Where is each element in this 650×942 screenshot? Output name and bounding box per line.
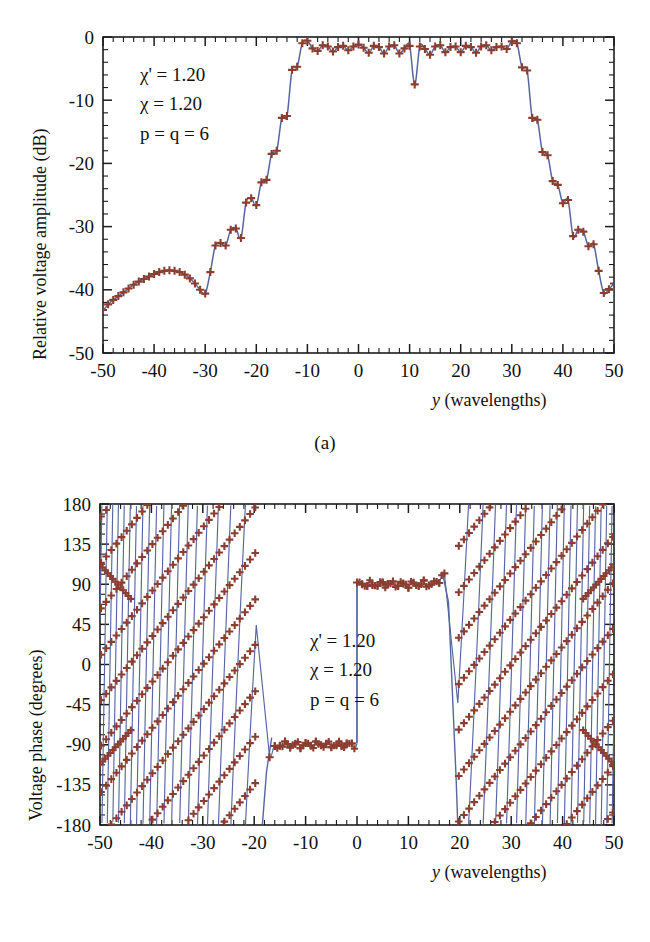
annotation-line-a-0: χ' = 1.20 [140,60,209,89]
y-tick-label: -20 [69,153,94,174]
x-tick-label: 10 [399,832,418,853]
annotation-line-b-2: p = q = 6 [310,685,379,714]
y-tick-label: -30 [69,216,94,237]
x-axis-label-a: y (wavelengths) [432,390,546,411]
annotation-line-a-2: p = q = 6 [140,119,209,148]
x-tick-label: -20 [244,360,269,381]
y-axis-label-b: Voltage phase (degrees) [26,649,47,821]
x-tick-label: 0 [354,360,364,381]
x-tick-label: -20 [242,832,267,853]
x-tick-label: 0 [352,832,362,853]
x-tick-label: -30 [193,360,218,381]
x-axis-label-a-unit: (wavelengths) [445,390,547,410]
y-tick-label: 135 [63,534,92,555]
x-tick-label: 10 [400,360,419,381]
panel-caption-a: (a) [0,432,650,454]
x-tick-label: -10 [293,832,318,853]
y-tick-label: -40 [69,279,94,300]
x-tick-label: -10 [295,360,320,381]
panel-a: -50-40-30-20-10010203040500-10-20-30-40-… [0,0,650,471]
y-tick-label: -180 [56,815,91,836]
x-axis-label-a-var: y [432,390,440,410]
y-tick-label: 180 [63,494,92,515]
x-tick-label: -50 [87,832,112,853]
annotation-line-b-0: χ' = 1.20 [310,626,379,655]
x-tick-label: 30 [502,360,521,381]
annotation-line-a-1: χ = 1.20 [140,89,209,118]
annotation-line-b-1: χ = 1.20 [310,655,379,684]
y-tick-label: -45 [66,694,91,715]
x-tick-label: -30 [190,832,215,853]
figure-root: -50-40-30-20-10010203040500-10-20-30-40-… [0,0,650,942]
x-tick-label: 50 [605,832,624,853]
x-tick-label: 40 [553,360,572,381]
y-tick-label: -10 [69,90,94,111]
y-tick-label: 45 [72,614,91,635]
x-axis-label-b-var: y [432,862,440,882]
x-axis-label-b: y (wavelengths) [432,862,546,883]
y-tick-label: -50 [69,343,94,364]
y-tick-label: -90 [66,734,91,755]
x-tick-label: 20 [451,360,470,381]
panel-b: -50-40-30-20-100102030405018013590450-45… [0,471,650,942]
annotation-block-b: χ' = 1.20 χ = 1.20 p = q = 6 [310,626,379,714]
amplitude-plot: -50-40-30-20-10010203040500-10-20-30-40-… [0,0,650,471]
y-tick-label: 0 [82,654,92,675]
x-tick-label: 40 [553,832,572,853]
y-tick-label: 90 [72,574,91,595]
x-tick-label: -50 [90,360,115,381]
x-tick-label: -40 [141,360,166,381]
x-tick-label: 30 [502,832,521,853]
annotation-block-a: χ' = 1.20 χ = 1.20 p = q = 6 [140,60,209,148]
x-tick-label: -40 [139,832,164,853]
y-axis-label-a: Relative voltage amplitude (dB) [30,129,51,360]
y-tick-label: 0 [85,27,95,48]
x-axis-label-b-unit: (wavelengths) [445,862,547,882]
x-tick-label: 50 [605,360,624,381]
x-tick-label: 20 [450,832,469,853]
y-tick-label: -135 [56,774,91,795]
